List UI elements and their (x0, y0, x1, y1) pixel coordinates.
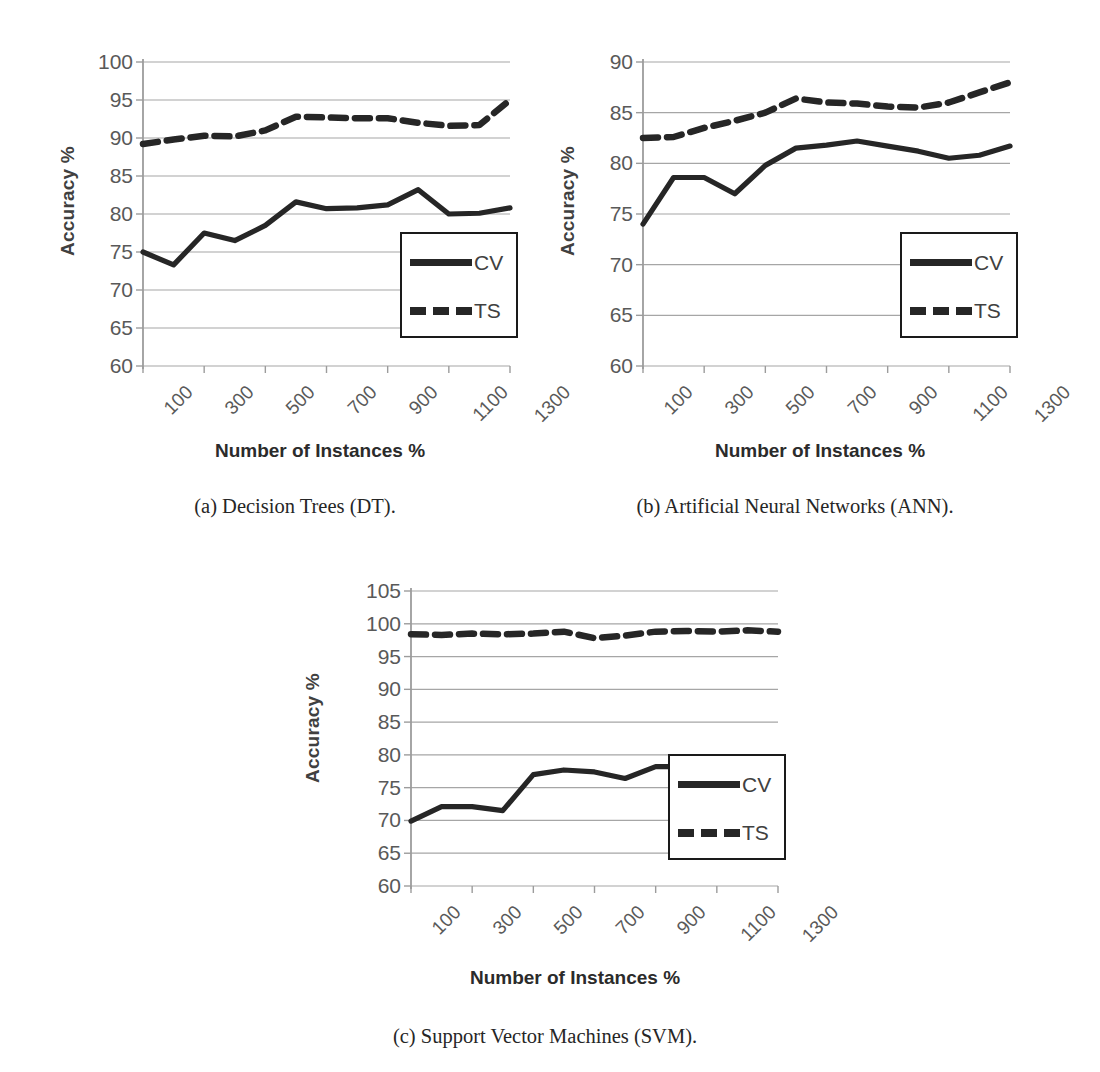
dt-x-tick-label: 700 (344, 382, 380, 418)
svm-x-tick-label: 700 (612, 902, 648, 938)
ann-series-ts-line (643, 82, 1010, 138)
cv-line-swatch-icon (910, 259, 972, 266)
dt-y-tick-label: 95 (75, 89, 133, 110)
svm-legend-row-ts[interactable]: TS (678, 822, 769, 843)
dt-legend-label-ts: TS (474, 300, 501, 321)
svm-y-tick-label: 60 (343, 875, 401, 896)
svm-y-tick-label: 95 (343, 646, 401, 667)
svm-y-tick-label: 80 (343, 744, 401, 765)
figure-page: Accuracy % Number of Instances % CV TS 6… (0, 0, 1100, 1072)
ann-x-tick-label: 900 (905, 382, 941, 418)
dt-y-tick-label: 90 (75, 127, 133, 148)
dt-x-axis-title: Number of Instances % (120, 440, 520, 462)
dt-legend-row-ts[interactable]: TS (410, 300, 501, 321)
svm-y-tick-label: 75 (343, 777, 401, 798)
svm-x-tick-label: 900 (673, 902, 709, 938)
chart-panel-svm: Accuracy % Number of Instances % CV TS 6… (285, 572, 805, 1042)
svm-legend[interactable]: CV TS (668, 754, 786, 860)
ann-x-tick-label: 1100 (969, 382, 1011, 424)
caption-dt: (a) Decision Trees (DT). (60, 495, 530, 518)
ann-x-axis-title: Number of Instances % (620, 440, 1020, 462)
svm-y-tick-label: 70 (343, 809, 401, 830)
svm-x-tick-label: 500 (551, 902, 587, 938)
ann-y-tick-label: 75 (575, 203, 633, 224)
svm-x-axis-title: Number of Instances % (375, 967, 775, 989)
dt-y-tick-label: 80 (75, 203, 133, 224)
dt-y-tick-label: 100 (75, 51, 133, 72)
ann-x-tick-label: 700 (844, 382, 880, 418)
dt-y-tick-label: 60 (75, 355, 133, 376)
dt-legend[interactable]: CV TS (400, 232, 518, 338)
svm-y-tick-label: 105 (343, 580, 401, 601)
ts-line-swatch-icon (910, 307, 972, 315)
svm-legend-label-cv: CV (742, 774, 771, 795)
ts-line-swatch-icon (410, 307, 472, 315)
svm-legend-row-cv[interactable]: CV (678, 774, 771, 795)
ann-y-tick-label: 60 (575, 355, 633, 376)
dt-y-tick-label: 65 (75, 317, 133, 338)
svm-y-tick-label: 90 (343, 678, 401, 699)
dt-x-tick-label: 1100 (469, 382, 511, 424)
svm-legend-label-ts: TS (742, 822, 769, 843)
svm-series-ts-line (411, 630, 778, 638)
svm-y-tick-label: 65 (343, 842, 401, 863)
dt-x-tick-label: 500 (283, 382, 319, 418)
cv-line-swatch-icon (678, 781, 740, 788)
ann-legend-row-ts[interactable]: TS (910, 300, 1001, 321)
dt-x-tick-label: 300 (221, 382, 257, 418)
dt-legend-label-cv: CV (474, 252, 503, 273)
ann-legend-label-cv: CV (974, 252, 1003, 273)
caption-ann: (b) Artificial Neural Networks (ANN). (560, 495, 1030, 518)
dt-y-tick-label: 75 (75, 241, 133, 262)
svm-x-tick-label: 1300 (798, 902, 841, 945)
chart-panel-ann: Accuracy % Number of Instances % CV TS 6… (540, 40, 1040, 520)
ann-y-tick-label: 65 (575, 304, 633, 325)
svm-y-tick-label: 100 (343, 613, 401, 634)
svm-x-tick-label: 1100 (737, 902, 779, 944)
cv-line-swatch-icon (410, 259, 472, 266)
ann-legend-row-cv[interactable]: CV (910, 252, 1003, 273)
dt-legend-row-cv[interactable]: CV (410, 252, 503, 273)
svm-y-tick-label: 85 (343, 711, 401, 732)
ann-legend-label-ts: TS (974, 300, 1001, 321)
ann-x-tick-label: 100 (660, 382, 696, 418)
chart-panel-dt: Accuracy % Number of Instances % CV TS 6… (40, 40, 540, 520)
ann-y-tick-label: 90 (575, 51, 633, 72)
ann-y-tick-label: 70 (575, 254, 633, 275)
dt-y-tick-label: 70 (75, 279, 133, 300)
ann-x-tick-label: 1300 (1030, 382, 1073, 425)
svm-y-axis-title: Accuracy % (302, 658, 324, 798)
ts-line-swatch-icon (678, 829, 740, 837)
ann-series-cv-line (643, 141, 1010, 224)
svm-x-tick-label: 100 (428, 902, 464, 938)
ann-x-tick-label: 500 (783, 382, 819, 418)
ann-y-tick-label: 85 (575, 102, 633, 123)
ann-y-tick-label: 80 (575, 152, 633, 173)
svm-x-tick-label: 300 (489, 902, 525, 938)
caption-svm: (c) Support Vector Machines (SVM). (295, 1025, 795, 1048)
ann-legend[interactable]: CV TS (900, 232, 1018, 338)
dt-x-tick-label: 900 (405, 382, 441, 418)
dt-y-tick-label: 85 (75, 165, 133, 186)
dt-x-tick-label: 100 (160, 382, 196, 418)
ann-x-tick-label: 300 (721, 382, 757, 418)
